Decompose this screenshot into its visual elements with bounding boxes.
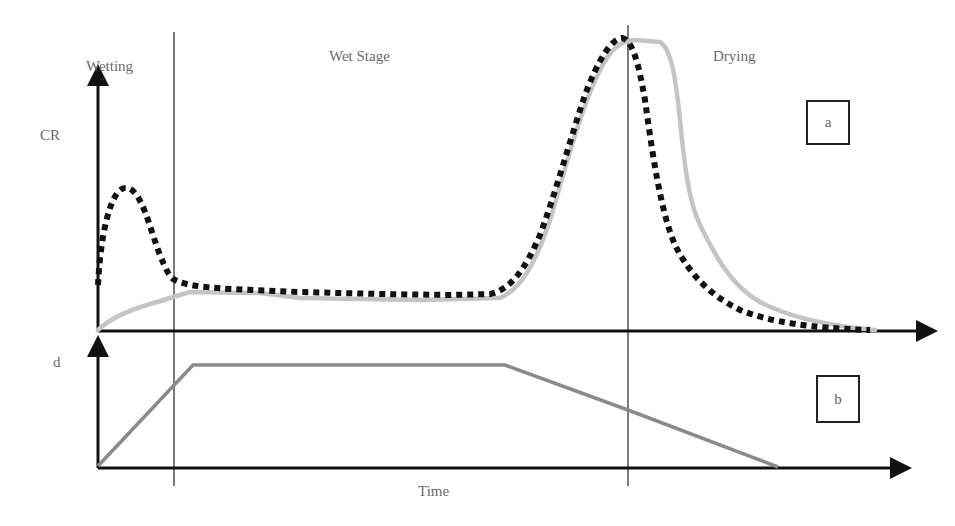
dotted-black-curve: [98, 38, 870, 330]
stage-label-drying: Drying: [713, 48, 756, 65]
trapezoid-thickness-curve: [98, 365, 778, 467]
bottom-y-axis-arrow-icon: [87, 335, 109, 357]
bottom-y-axis-label: d: [53, 354, 61, 371]
panel-tag-b: b: [816, 375, 860, 423]
top-x-axis-arrow-icon: [916, 320, 938, 342]
diagram-graphics: [0, 0, 955, 526]
bottom-x-axis-arrow-icon: [890, 457, 912, 479]
stage-label-wetting: Wetting: [86, 58, 133, 75]
x-axis-label: Time: [418, 483, 449, 500]
wetting-drying-diagram: Wetting Wet Stage Drying CR d Time a b: [0, 0, 955, 526]
panel-tag-a: a: [806, 100, 850, 145]
top-y-axis-label: CR: [40, 127, 60, 144]
stage-label-wet-stage: Wet Stage: [329, 48, 390, 65]
